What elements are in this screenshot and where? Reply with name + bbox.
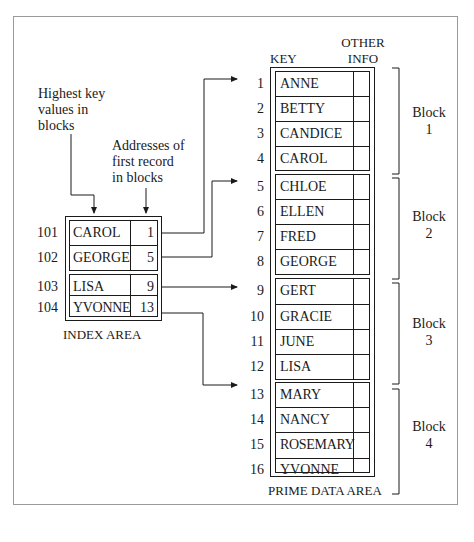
record-key: ELLEN <box>280 204 324 220</box>
index-key: LISA <box>73 279 104 295</box>
index-area-label: INDEX AREA <box>63 327 141 343</box>
record-number: 12 <box>238 359 264 375</box>
record-number: 1 <box>238 76 264 92</box>
block-number: 4 <box>404 435 454 452</box>
record-key: GRACIE <box>280 309 332 325</box>
index-address: 102 <box>32 250 58 266</box>
block-number: 2 <box>404 225 454 242</box>
record-key: GERT <box>280 283 316 299</box>
other-info-header-line: OTHER <box>338 35 388 51</box>
record-key: GEORGE <box>280 254 337 270</box>
index-address: 104 <box>32 300 58 316</box>
record-number: 6 <box>238 204 264 220</box>
record-key: FRED <box>280 229 316 245</box>
block-label-4: Block 4 <box>404 418 454 452</box>
block-number: 1 <box>404 121 454 138</box>
index-key: CAROL <box>73 225 120 241</box>
other-info-header: OTHER INFO <box>338 35 388 67</box>
block-label-2: Block 2 <box>404 208 454 242</box>
annotation-first-address: Addresses of first record in blocks <box>112 138 185 186</box>
record-key: ROSEMARY <box>280 437 355 453</box>
record-number: 16 <box>238 462 264 478</box>
index-pointer: 1 <box>140 225 154 241</box>
block-word: Block <box>404 315 454 332</box>
record-key: LISA <box>280 359 311 375</box>
record-number: 2 <box>238 101 264 117</box>
index-pointer: 13 <box>134 300 154 316</box>
index-key: GEORGE <box>73 250 130 266</box>
index-address: 101 <box>32 225 58 241</box>
other-info-header-line: INFO <box>338 51 388 67</box>
block-word: Block <box>404 104 454 121</box>
record-number: 13 <box>238 387 264 403</box>
annotation-line: in blocks <box>112 170 185 186</box>
record-number: 14 <box>238 412 264 428</box>
record-number: 11 <box>238 334 264 350</box>
block-number: 3 <box>404 332 454 349</box>
diagram-lines <box>0 0 474 542</box>
record-number: 7 <box>238 229 264 245</box>
record-number: 9 <box>238 283 264 299</box>
record-key: MARY <box>280 387 321 403</box>
prime-data-area-label: PRIME DATA AREA <box>268 483 382 499</box>
record-number: 10 <box>238 309 264 325</box>
record-key: NANCY <box>280 412 330 428</box>
record-key: YVONNE <box>280 462 339 478</box>
annotation-line: blocks <box>38 118 105 134</box>
record-number: 8 <box>238 254 264 270</box>
record-key: BETTY <box>280 101 325 117</box>
record-number: 4 <box>238 151 264 167</box>
index-address: 103 <box>32 279 58 295</box>
record-key: CAROL <box>280 151 327 167</box>
record-key: CANDICE <box>280 126 342 142</box>
index-key: YVONNE <box>73 300 130 316</box>
annotation-line: first record <box>112 154 185 170</box>
block-label-3: Block 3 <box>404 315 454 349</box>
block-word: Block <box>404 418 454 435</box>
block-label-1: Block 1 <box>404 104 454 138</box>
annotation-line: Addresses of <box>112 138 185 154</box>
annotation-highest-key: Highest key values in blocks <box>38 86 105 134</box>
index-pointer: 5 <box>140 250 154 266</box>
block-word: Block <box>404 208 454 225</box>
index-pointer: 9 <box>140 279 154 295</box>
record-number: 15 <box>238 437 264 453</box>
key-header: KEY <box>270 51 297 67</box>
record-key: JUNE <box>280 334 314 350</box>
record-key: CHLOE <box>280 179 327 195</box>
annotation-line: values in <box>38 102 105 118</box>
record-key: ANNE <box>280 76 319 92</box>
annotation-line: Highest key <box>38 86 105 102</box>
record-number: 3 <box>238 126 264 142</box>
record-number: 5 <box>238 179 264 195</box>
